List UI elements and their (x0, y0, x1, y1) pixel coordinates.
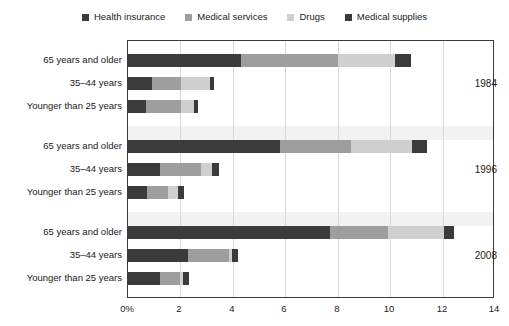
bar-segment-health_insurance (128, 226, 330, 239)
x-tick-label-10: 10 (384, 303, 395, 314)
bar-segment-health_insurance (128, 100, 146, 113)
bar-segment-medical_supplies (232, 249, 238, 262)
bar-row[interactable] (128, 163, 219, 176)
x-tick-label-8: 8 (334, 303, 339, 314)
bar-segment-medical_services (146, 100, 181, 113)
bar-segment-health_insurance (128, 186, 147, 199)
bar-segment-medical_supplies (395, 54, 411, 67)
bar-row[interactable] (128, 140, 427, 153)
category-label: Younger than 25 years (0, 100, 122, 111)
bar-segment-medical_supplies (444, 226, 454, 239)
bar-segment-health_insurance (128, 163, 160, 176)
plot-area (127, 40, 494, 298)
bar-segment-medical_supplies (178, 186, 184, 199)
bar-segment-medical_services (147, 186, 168, 199)
legend-swatch-icon-medical_supplies (345, 14, 352, 21)
bar-segment-drugs (338, 54, 396, 67)
year-label-1996: 1996 (475, 164, 497, 175)
x-tick-label-0: 0% (120, 303, 134, 314)
bar-segment-medical_services (280, 140, 351, 153)
category-axis-labels: 65 years and older35–44 yearsYounger tha… (0, 40, 122, 298)
legend-label-drugs: Drugs (299, 12, 324, 22)
bar-segment-medical_services (160, 163, 201, 176)
x-tick-label-14: 14 (489, 303, 500, 314)
x-tick-label-2: 2 (176, 303, 181, 314)
category-label: 65 years and older (0, 140, 122, 151)
bar-row[interactable] (128, 54, 411, 67)
legend-swatch-icon-drugs (287, 14, 294, 21)
legend-swatch-icon-health_insurance (82, 14, 89, 21)
legend-label-medical_services: Medical services (197, 12, 267, 22)
x-tick-label-4: 4 (229, 303, 234, 314)
year-label-2008: 2008 (475, 250, 497, 261)
bar-segment-medical_supplies (210, 77, 214, 90)
legend-item-medical_services[interactable]: Medical services (185, 12, 267, 22)
chart-legend: Health insuranceMedical servicesDrugsMed… (0, 9, 509, 25)
bar-segment-drugs (388, 226, 444, 239)
x-axis: 0%2468101214 (127, 299, 494, 321)
category-label: Younger than 25 years (0, 186, 122, 197)
bar-segment-health_insurance (128, 77, 152, 90)
bar-segment-medical_services (330, 226, 388, 239)
bar-segment-medical_services (241, 54, 338, 67)
bar-segment-drugs (181, 77, 210, 90)
bars-layer (128, 41, 493, 297)
bar-segment-drugs (168, 186, 178, 199)
bar-segment-medical_services (152, 77, 181, 90)
bar-segment-medical_supplies (194, 100, 198, 113)
bar-segment-medical_services (160, 272, 180, 285)
bar-segment-medical_supplies (212, 163, 219, 176)
legend-item-health_insurance[interactable]: Health insurance (82, 12, 165, 22)
category-label: 35–44 years (0, 163, 122, 174)
legend-label-medical_supplies: Medical supplies (357, 12, 427, 22)
bar-segment-medical_services (188, 249, 229, 262)
bar-segment-health_insurance (128, 54, 241, 67)
bar-row[interactable] (128, 186, 184, 199)
x-tick-label-12: 12 (437, 303, 448, 314)
bar-row[interactable] (128, 77, 214, 90)
bar-segment-health_insurance (128, 140, 280, 153)
bar-segment-drugs (181, 100, 193, 113)
bar-segment-medical_supplies (412, 140, 426, 153)
year-label-1984: 1984 (475, 78, 497, 89)
category-label: 35–44 years (0, 77, 122, 88)
bar-row[interactable] (128, 100, 198, 113)
category-label: Younger than 25 years (0, 272, 122, 283)
legend-item-medical_supplies[interactable]: Medical supplies (345, 12, 427, 22)
category-label: 35–44 years (0, 249, 122, 260)
bar-row[interactable] (128, 226, 454, 239)
category-label: 65 years and older (0, 54, 122, 65)
bar-segment-drugs (351, 140, 413, 153)
bar-segment-medical_supplies (183, 272, 189, 285)
bar-segment-health_insurance (128, 272, 160, 285)
legend-item-drugs[interactable]: Drugs (287, 12, 324, 22)
bar-row[interactable] (128, 272, 189, 285)
bar-row[interactable] (128, 249, 238, 262)
x-tick-label-6: 6 (281, 303, 286, 314)
legend-label-health_insurance: Health insurance (94, 12, 165, 22)
legend-swatch-icon-medical_services (185, 14, 192, 21)
bar-segment-drugs (201, 163, 212, 176)
category-label: 65 years and older (0, 226, 122, 237)
bar-segment-health_insurance (128, 249, 188, 262)
